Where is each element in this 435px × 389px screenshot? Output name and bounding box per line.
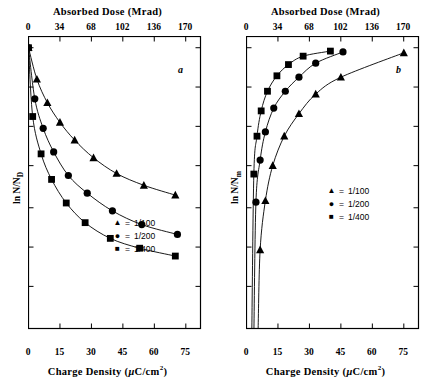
data-point-square [29, 113, 36, 120]
data-point-square [48, 176, 55, 183]
data-point-square [327, 48, 334, 55]
bottom-axis-title-a-post: ) [163, 366, 167, 377]
data-point-circle [174, 231, 181, 238]
top-tick-label: 68 [304, 22, 314, 32]
data-point-triangle [113, 169, 121, 177]
chart-panel-b: Absorbed Dose (Mrad) 03468102136170 ln N… [218, 0, 433, 389]
data-point-square [63, 200, 70, 207]
bottom-axis-title-b-mid: C/cm [353, 366, 378, 377]
bottom-tick-label: 0 [244, 347, 249, 357]
series-curve-1-200 [29, 48, 178, 235]
data-point-circle [339, 48, 346, 55]
data-point-triangle [269, 161, 277, 169]
bottom-tick-label: 45 [336, 347, 346, 357]
data-point-square [172, 253, 179, 260]
plot-frame [247, 37, 419, 329]
bottom-tick-label: 75 [399, 347, 409, 357]
figure-container: Absorbed Dose (Mrad) 03468102136170 ln N… [0, 0, 435, 389]
bottom-tick-labels-b: 01530456075 [218, 347, 433, 359]
bottom-tick-label: 60 [149, 347, 159, 357]
chart-panel-a: Absorbed Dose (Mrad) 03468102136170 ln N… [0, 0, 215, 389]
data-point-square [38, 150, 45, 157]
bottom-axis-title-b-post: ) [381, 366, 385, 377]
data-point-circle [282, 88, 289, 95]
data-point-circle [40, 125, 47, 132]
top-tick-label: 102 [115, 22, 129, 32]
bottom-tick-label: 30 [304, 347, 314, 357]
bottom-tick-label: 75 [181, 347, 191, 357]
top-tick-labels-b: 03468102136170 [218, 22, 433, 34]
data-point-square [258, 108, 265, 115]
data-point-circle [312, 60, 319, 67]
data-point-square [254, 133, 261, 140]
top-tick-label: 0 [244, 22, 249, 32]
bottom-tick-label: 15 [273, 347, 283, 357]
top-tick-label: 136 [147, 22, 161, 32]
data-point-circle [295, 74, 302, 81]
bottom-tick-label: 45 [118, 347, 128, 357]
data-point-circle [31, 95, 38, 102]
bottom-axis-title-b: Charge Density (μC/cm2) [218, 364, 433, 377]
data-point-triangle [33, 75, 41, 83]
y-axis-label-a: ln N/ND [12, 172, 25, 204]
data-point-square [136, 245, 143, 252]
data-point-triangle [89, 153, 97, 161]
data-point-triangle [337, 73, 345, 81]
data-point-square [28, 44, 32, 51]
series-curve-1-100 [258, 53, 404, 329]
bottom-axis-title-a: Charge Density (μC/cm2) [0, 364, 215, 377]
data-point-circle [262, 128, 269, 135]
data-point-circle [257, 156, 264, 163]
data-point-triangle [400, 48, 408, 56]
plot-area-a [28, 36, 202, 330]
bottom-tick-labels-a: 01530456075 [0, 347, 215, 359]
top-axis-title-b: Absorbed Dose (Mrad) [218, 6, 433, 17]
top-tick-label: 34 [273, 22, 283, 32]
data-point-triangle [43, 98, 51, 106]
data-point-triangle [312, 90, 320, 98]
data-point-square [264, 88, 271, 95]
data-point-square [274, 72, 281, 79]
top-tick-label: 170 [178, 22, 192, 32]
data-point-triangle [56, 118, 64, 126]
y-axis-label-a-text: ln N/N [12, 177, 22, 204]
data-point-triangle [140, 181, 148, 189]
bottom-tick-label: 60 [367, 347, 377, 357]
bottom-axis-title-b-pre: Charge Density ( [266, 366, 347, 377]
bottom-tick-label: 0 [26, 347, 31, 357]
y-axis-label-a-subscript: D [16, 172, 25, 177]
bottom-axis-title-a-mid: C/cm [135, 366, 160, 377]
series-curve-1-100 [29, 48, 176, 195]
top-tick-label: 136 [365, 22, 379, 32]
y-axis-label-b-text: ln N/N [230, 177, 240, 204]
top-tick-label: 68 [86, 22, 96, 32]
data-point-square [82, 219, 89, 226]
top-tick-label: 102 [333, 22, 347, 32]
bottom-tick-label: 15 [55, 347, 65, 357]
y-axis-label-b: ln N/Nm [230, 171, 243, 204]
top-tick-labels-a: 03468102136170 [0, 22, 215, 34]
top-axis-title-a: Absorbed Dose (Mrad) [0, 6, 215, 17]
data-point-square [250, 171, 257, 178]
data-point-square [107, 235, 114, 242]
series-curve-1-400 [252, 51, 331, 328]
bottom-axis-title-a-pre: Charge Density ( [48, 366, 129, 377]
data-point-circle [65, 172, 72, 179]
top-tick-label: 0 [26, 22, 31, 32]
bottom-tick-label: 30 [86, 347, 96, 357]
data-point-square [285, 61, 292, 68]
data-point-triangle [280, 132, 288, 140]
data-point-circle [270, 104, 277, 111]
data-point-circle [109, 207, 116, 214]
data-point-square [300, 53, 307, 60]
y-axis-label-b-subscript: m [234, 171, 243, 177]
data-point-triangle [261, 196, 269, 204]
plot-area-b [246, 36, 420, 330]
top-tick-label: 34 [55, 22, 65, 32]
data-point-circle [84, 190, 91, 197]
top-tick-label: 170 [396, 22, 410, 32]
data-point-triangle [256, 246, 264, 254]
data-point-circle [50, 148, 57, 155]
data-point-circle [138, 221, 145, 228]
